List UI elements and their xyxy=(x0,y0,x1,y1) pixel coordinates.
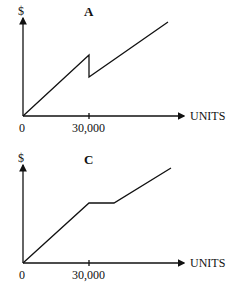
origin-label-c: 0 xyxy=(19,269,25,281)
line-a xyxy=(23,22,168,116)
chart-title-a: A xyxy=(84,6,93,18)
y-axis-label-a: $ xyxy=(18,5,24,17)
tick-label-c: 30,000 xyxy=(72,269,105,281)
origin-label-a: 0 xyxy=(19,122,25,134)
chart-a xyxy=(23,18,184,119)
chart-title-c: C xyxy=(84,154,93,166)
x-axis-label-c: UNITS xyxy=(190,257,225,269)
chart-c xyxy=(23,165,184,266)
x-axis-label-a: UNITS xyxy=(190,110,225,122)
charts-canvas xyxy=(0,0,241,293)
y-axis-label-c: $ xyxy=(18,152,24,164)
tick-label-a: 30,000 xyxy=(72,122,105,134)
line-c xyxy=(23,168,171,263)
